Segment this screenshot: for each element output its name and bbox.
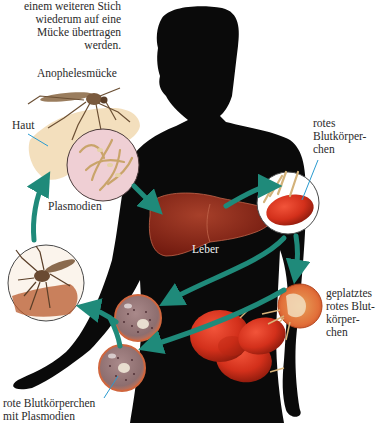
- burst-line-1: geplatztes: [326, 287, 375, 300]
- infected-line-1: rote Blutkörperchen: [3, 397, 95, 410]
- burst-line-4: chen: [326, 326, 375, 339]
- label-haut: Haut: [12, 119, 34, 132]
- rbc-line-3: chen: [313, 143, 366, 156]
- intro-line-1: einem weiteren Stich: [24, 0, 121, 13]
- arrow-mosquito-to-skin: [33, 182, 44, 240]
- intro-line-4: werden.: [14, 39, 121, 52]
- intro-line-2: wiederum auf eine: [14, 13, 121, 26]
- label-rote-blutkoerperchen-mit-plasmodien: rote Blutkörperchen mit Plasmodien: [3, 397, 95, 423]
- burst-line-2: rotes Blut-: [326, 300, 375, 313]
- rbc-line-2: Blutkörper-: [313, 130, 366, 143]
- label-plasmodien: Plasmodien: [48, 200, 102, 213]
- intro-line-3: Mücke übertragen: [14, 26, 121, 39]
- infected-line-2: mit Plasmodien: [3, 410, 95, 423]
- plasmodien-inset: [67, 129, 139, 201]
- label-geplatztes-blutkoerperchen: geplatztes rotes Blut- körper- chen: [326, 287, 375, 339]
- intro-text: einem weiteren Stich wiederum auf eine M…: [14, 0, 121, 52]
- arrow-rbc-to-burst: [296, 236, 298, 272]
- label-rotes-blutkoerperchen: rotes Blutkörper- chen: [313, 117, 366, 156]
- rbc-line-1: rotes: [313, 117, 366, 130]
- label-anophelesmuecke: Anophelesmücke: [37, 67, 117, 80]
- mosquito-feeding-inset: [8, 245, 84, 321]
- malaria-cycle-diagram: einem weiteren Stich wiederum auf eine M…: [0, 0, 380, 423]
- burst-line-3: körper-: [326, 313, 375, 326]
- label-leber: Leber: [192, 243, 219, 256]
